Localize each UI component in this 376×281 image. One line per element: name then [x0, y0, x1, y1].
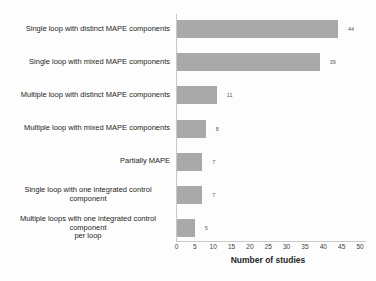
x-tick-label: 35	[295, 243, 315, 250]
x-axis-line	[176, 241, 366, 242]
x-tick-label: 10	[203, 243, 223, 250]
x-tick-label: 50	[350, 243, 370, 250]
x-tick-label: 30	[277, 243, 297, 250]
bar	[177, 86, 217, 104]
value-label: 7	[212, 186, 215, 204]
x-axis-title: Number of studies	[176, 255, 360, 265]
bar	[177, 20, 338, 38]
category-label: Partially MAPE	[120, 153, 170, 171]
value-label: 39	[330, 53, 336, 71]
x-tick-label: 5	[185, 243, 205, 250]
value-label: 5	[205, 219, 208, 237]
bar	[177, 120, 206, 138]
x-tick-label: 45	[332, 243, 352, 250]
value-label: 8	[216, 120, 219, 138]
bar	[177, 53, 320, 71]
x-tick-label: 0	[167, 243, 187, 250]
category-label: Multiple loop with mixed MAPE components	[24, 120, 170, 138]
x-tick-label: 25	[258, 243, 278, 250]
x-tick-label: 20	[240, 243, 260, 250]
category-label: Single loop with mixed MAPE components	[29, 53, 170, 71]
category-label: Single loop with distinct MAPE component…	[26, 20, 170, 38]
category-label: Single loop with one integrated control …	[6, 186, 170, 204]
bar-chart: Single loop with distinct MAPE component…	[0, 0, 376, 281]
x-tick-label: 15	[222, 243, 242, 250]
category-label: Multiple loops with one integrated contr…	[6, 219, 170, 237]
bar	[177, 186, 203, 204]
value-label: 11	[227, 86, 233, 104]
category-label: Multiple loop with distinct MAPE compone…	[21, 86, 170, 104]
value-label: 44	[348, 20, 354, 38]
bar	[177, 219, 195, 237]
x-tick-label: 40	[313, 243, 333, 250]
value-label: 7	[212, 153, 215, 171]
bar	[177, 153, 203, 171]
